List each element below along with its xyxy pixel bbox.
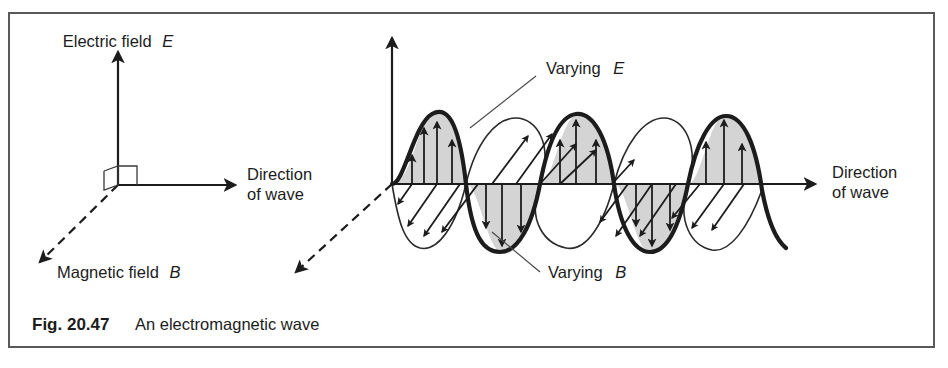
b-field-arrow: [712, 184, 744, 230]
wave-diagram-group: Varying E Varying B Direction of wave: [296, 38, 897, 281]
b-field-arrow: [492, 136, 528, 184]
varying-e-label-text: Varying: [546, 59, 601, 77]
electric-field-label-text: Electric field: [63, 32, 152, 50]
varying-b-symbol: B: [615, 263, 626, 281]
magnetic-field-symbol: B: [169, 263, 180, 281]
right-angle-marker-xy: [118, 166, 137, 185]
figure-container: Electric field E Magnetic field B Direct…: [0, 0, 948, 368]
magnetic-field-label-text: Magnetic field: [57, 263, 159, 281]
magnetic-field-axis-label: Magnetic field B: [57, 263, 180, 281]
electromagnetic-wave-diagram: Electric field E Magnetic field B Direct…: [0, 0, 948, 368]
axes-triad-group: Electric field E Magnetic field B Direct…: [40, 32, 312, 281]
b-field-arrow: [398, 184, 412, 204]
varying-e-label: Varying E: [546, 59, 625, 77]
wave-direction-label-line1: Direction: [832, 163, 897, 181]
triad-direction-label-line2: of wave: [247, 185, 304, 203]
triad-direction-label-line1: Direction: [247, 165, 312, 183]
figure-number-label: Fig. 20.47: [32, 315, 109, 334]
wave-direction-label-line2: of wave: [832, 183, 889, 201]
varying-b-label: Varying B: [548, 263, 626, 281]
right-angle-marker-z: [104, 166, 118, 190]
figure-caption-text: An electromagnetic wave: [135, 315, 319, 333]
wave-depth-axis: [296, 184, 392, 272]
figure-caption-group: Fig. 20.47 An electromagnetic wave: [32, 315, 319, 334]
electric-field-axis-label: Electric field E: [63, 32, 175, 50]
b-field-arrow: [612, 160, 634, 184]
varying-b-label-text: Varying: [548, 263, 603, 281]
electric-field-symbol: E: [162, 32, 174, 50]
magnetic-field-axis: [40, 185, 118, 262]
e-wave-shading-lobe3: [540, 114, 614, 184]
b-field-arrow: [408, 184, 437, 226]
varying-e-symbol: E: [613, 59, 625, 77]
b-field-arrow: [424, 184, 460, 236]
b-field-arrow: [692, 184, 724, 228]
